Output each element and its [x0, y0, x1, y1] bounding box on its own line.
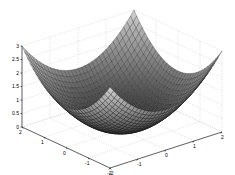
z-tick-label: 2 [16, 70, 19, 76]
surface-plot: -2-1012-2-101200.511.522.53 [0, 0, 235, 175]
z-tick-label: 3 [16, 43, 19, 49]
y-tick-label: 0 [165, 152, 168, 158]
y-tick-label: 1 [193, 143, 196, 149]
x-tick-label: -1 [85, 160, 90, 166]
x-tick-label: 1 [41, 139, 44, 145]
x-tick-label: 0 [63, 150, 66, 156]
y-tick-label: 2 [221, 134, 224, 140]
z-tick-label: 0 [16, 124, 19, 130]
surface-facet [216, 51, 222, 61]
surface-facet [210, 58, 216, 67]
z-tick-label: 2.5 [12, 56, 19, 62]
surface-facet [22, 46, 28, 56]
surface-mesh [22, 10, 222, 134]
z-tick-label: 1 [16, 97, 19, 103]
z-tick-label: 0.5 [12, 110, 19, 116]
x-tick-label: 2 [19, 129, 22, 135]
y-tick-label: -1 [137, 161, 142, 167]
y-tick-label: -2 [109, 170, 114, 175]
z-tick-label: 1.5 [12, 83, 19, 89]
